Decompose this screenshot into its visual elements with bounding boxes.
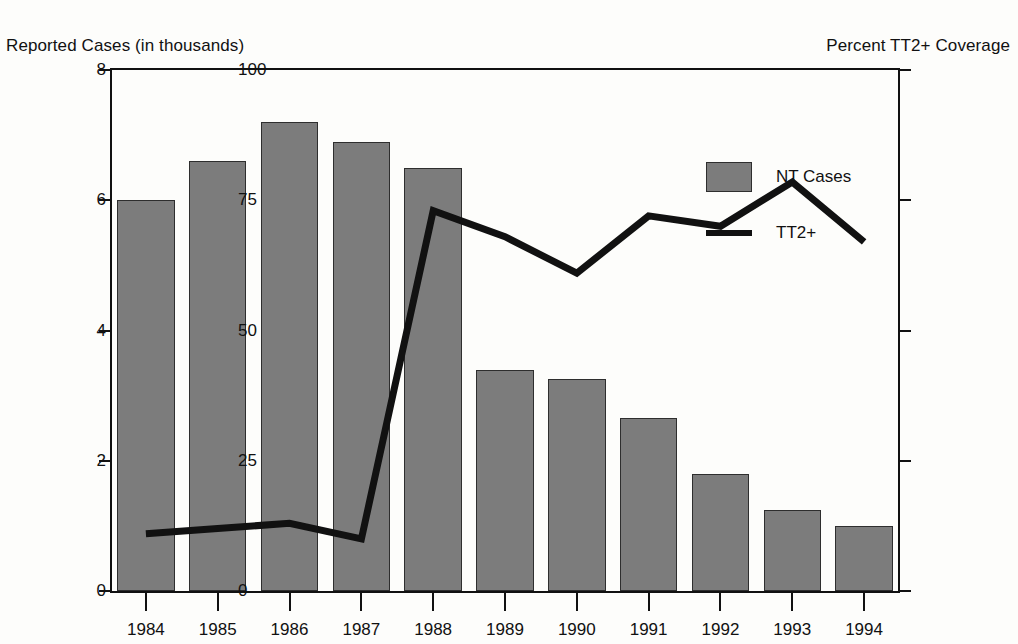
legend-bar-swatch-icon (706, 162, 752, 192)
right-axis-title: Percent TT2+ Coverage (826, 36, 1010, 56)
left-axis-title: Reported Cases (in thousands) (6, 36, 244, 56)
plot-area: 02468 0255075100 19841985198619871988198… (110, 68, 900, 593)
y-tick-right-0 (900, 590, 911, 592)
x-tick-label-1988: 1988 (414, 620, 452, 640)
x-tick-label-1994: 1994 (845, 620, 883, 640)
x-tick-label-1990: 1990 (558, 620, 596, 640)
y-tick-label-right-50: 50 (238, 321, 257, 341)
x-tick-1991 (648, 593, 650, 611)
x-tick-1989 (504, 593, 506, 611)
y-tick-right-100 (900, 69, 911, 71)
x-tick-label-1992: 1992 (702, 620, 740, 640)
y-tick-label-right-25: 25 (238, 451, 257, 471)
y-tick-label-right-100: 100 (238, 60, 266, 80)
tt2-line-series (110, 68, 900, 593)
legend-label-nt-cases: NT Cases (776, 167, 851, 187)
x-tick-1987 (360, 593, 362, 611)
x-tick-label-1989: 1989 (486, 620, 524, 640)
y-tick-label-left-4: 4 (97, 321, 106, 341)
x-tick-label-1991: 1991 (630, 620, 668, 640)
x-tick-1988 (432, 593, 434, 611)
y-tick-right-50 (900, 330, 911, 332)
y-tick-right-25 (900, 460, 911, 462)
legend-item-tt2: TT2+ (706, 216, 926, 250)
y-tick-label-left-0: 0 (97, 581, 106, 601)
x-tick-1994 (863, 593, 865, 611)
chart-legend: NT Cases TT2+ (706, 160, 926, 272)
chart-root: Reported Cases (in thousands) Percent TT… (0, 0, 1018, 644)
legend-line-swatch-icon (706, 230, 752, 236)
x-tick-1992 (719, 593, 721, 611)
legend-item-nt-cases: NT Cases (706, 160, 926, 194)
x-tick-1985 (217, 593, 219, 611)
x-tick-1990 (576, 593, 578, 611)
x-tick-1993 (791, 593, 793, 611)
y-tick-label-right-75: 75 (238, 190, 257, 210)
x-tick-label-1984: 1984 (127, 620, 165, 640)
x-tick-1984 (145, 593, 147, 611)
x-tick-label-1993: 1993 (773, 620, 811, 640)
y-tick-label-right-0: 0 (238, 581, 247, 601)
x-tick-1986 (289, 593, 291, 611)
x-tick-label-1987: 1987 (342, 620, 380, 640)
y-tick-label-left-8: 8 (97, 60, 106, 80)
y-tick-label-left-6: 6 (97, 190, 106, 210)
y-tick-label-left-2: 2 (97, 451, 106, 471)
legend-label-tt2: TT2+ (776, 223, 816, 243)
x-tick-label-1986: 1986 (271, 620, 309, 640)
x-tick-label-1985: 1985 (199, 620, 237, 640)
